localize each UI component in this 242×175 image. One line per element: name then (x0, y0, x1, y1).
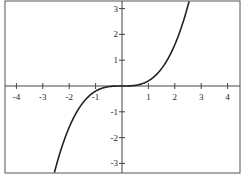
y-tick-label: -2 (111, 133, 119, 143)
x-tick-label: -2 (65, 92, 73, 102)
y-tick-label: 2 (114, 29, 119, 39)
x-tick-label: -4 (13, 92, 21, 102)
x-tick-label: 4 (225, 92, 230, 102)
y-tick-label: -1 (111, 107, 119, 117)
y-tick-label: 1 (114, 55, 119, 65)
x-tick-label: 2 (173, 92, 178, 102)
x-tick-label: 3 (199, 92, 204, 102)
y-tick-label: -3 (111, 158, 119, 168)
y-tick-label: 3 (114, 4, 119, 14)
x-tick-label: 1 (146, 92, 151, 102)
chart: -4-3-2-11234-3-2-1123 (0, 0, 242, 175)
x-tick-label: -3 (39, 92, 47, 102)
